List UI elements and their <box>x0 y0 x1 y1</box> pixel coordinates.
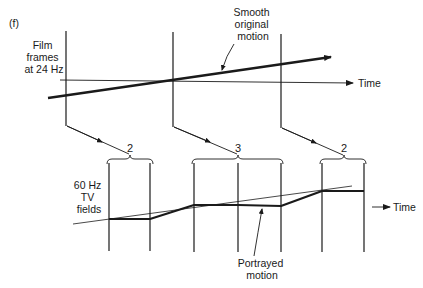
tv-fields-label: 60 Hz TV fields <box>74 179 104 215</box>
arrowhead <box>282 128 316 143</box>
smooth-motion-line <box>48 57 331 98</box>
group-count-3: 2 <box>341 142 347 154</box>
bottom-time-label: Time <box>393 201 416 213</box>
pulldown-arrows <box>67 126 343 155</box>
brace-group-2 <box>192 155 283 164</box>
tv-fields-section: 60 Hz TV fields Time Portrayed motion <box>73 163 416 281</box>
portrayed-motion-label: Portrayed motion <box>238 257 286 281</box>
top-time-label: Time <box>358 77 381 89</box>
smooth-motion-leader-arrow <box>222 44 234 70</box>
panel-label: (f) <box>9 17 19 29</box>
portrayed-motion-leader-arrow <box>254 209 262 256</box>
pulldown-diagram: (f) Film frames at 24 Hz Time Smooth ori… <box>0 0 423 288</box>
film-frames-section: Film frames at 24 Hz Time Smooth origina… <box>24 6 381 128</box>
top-time-axis <box>60 80 353 83</box>
group-count-2: 3 <box>235 142 241 154</box>
arrowhead <box>67 126 102 142</box>
field-group-braces <box>107 155 366 164</box>
brace-group-3 <box>320 155 366 164</box>
portrayed-motion-line <box>109 191 364 219</box>
arrowhead <box>174 127 210 142</box>
film-frames-label: Film frames at 24 Hz <box>24 39 63 75</box>
brace-group-1 <box>107 155 153 164</box>
group-count-1: 2 <box>127 142 133 154</box>
smooth-motion-label: Smooth original motion <box>233 6 272 42</box>
